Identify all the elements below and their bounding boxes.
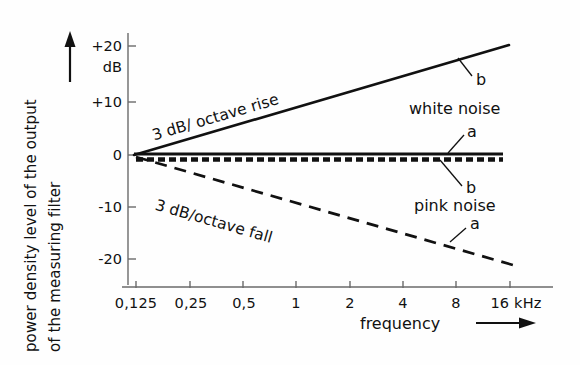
- series-id-flat-a: a: [467, 122, 477, 141]
- leader-flat-a: [448, 135, 464, 153]
- x-tick-label-05: 0,5: [232, 295, 256, 311]
- series-id-flat-b: b: [466, 178, 476, 197]
- leader-flat-b: [440, 160, 462, 186]
- x-tick-label-16khz: 16 kHz: [490, 295, 541, 311]
- x-axis-title: frequency: [360, 314, 440, 333]
- x-tick-label-4: 4: [398, 295, 407, 311]
- x-tick-label-0125: 0,125: [115, 295, 158, 311]
- y-axis-title-line2: of the measuring filter: [46, 182, 64, 352]
- x-tick-label-8: 8: [451, 295, 460, 311]
- x-tick-label-2: 2: [345, 295, 354, 311]
- figure-canvas: power density level of the output of the…: [0, 0, 580, 365]
- x-tick-label-025: 0,25: [174, 295, 207, 311]
- leader-fall-a: [450, 228, 466, 242]
- y-axis-unit-label: dB: [72, 59, 122, 75]
- y-axis-ticks: [128, 46, 136, 259]
- y-tick-label-0: 0: [72, 147, 122, 163]
- y-tick-label-minus20: -20: [72, 251, 122, 267]
- y-tick-label-10: +10: [72, 94, 122, 110]
- group-label-pink-noise: pink noise: [414, 196, 496, 215]
- x-tick-label-1: 1: [291, 295, 300, 311]
- series-id-fall-a: a: [470, 214, 480, 233]
- y-tick-label-minus10: -10: [72, 199, 122, 215]
- y-tick-label-20: +20: [72, 38, 122, 54]
- y-axis-title-line1: power density level of the output: [22, 99, 40, 352]
- arrow-right-icon: [476, 318, 536, 329]
- group-label-white-noise: white noise: [409, 99, 500, 118]
- leader-rise-b: [458, 58, 472, 76]
- series-id-rise-b: b: [476, 70, 486, 89]
